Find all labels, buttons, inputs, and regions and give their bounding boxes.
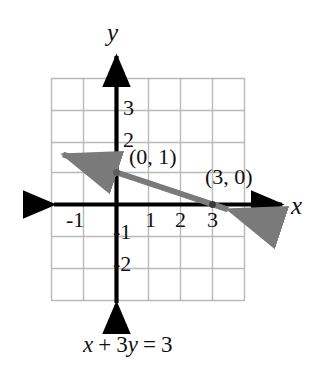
equation-coefficient: 3 xyxy=(116,332,128,357)
y-tick-label-minus-2: -2 xyxy=(113,253,131,275)
x-tick-label-2: 2 xyxy=(175,209,186,231)
point-label-y-intercept: (0, 1) xyxy=(129,146,177,168)
x-tick-label-minus-1: -1 xyxy=(66,209,84,231)
coordinate-plane-svg xyxy=(0,0,315,371)
x-tick-label-1: 1 xyxy=(145,209,156,231)
y-tick-label-minus-1: -1 xyxy=(113,221,131,243)
y-tick-label-3: 3 xyxy=(123,97,134,119)
equation-caption: x+3y=3 xyxy=(83,333,172,356)
equation-equals: = xyxy=(143,332,156,357)
point-label-x-intercept: (3, 0) xyxy=(205,166,253,188)
point-0-1-marker xyxy=(113,169,120,176)
equation-term-x: x xyxy=(83,332,93,357)
equation-term-y: y xyxy=(128,332,138,357)
equation-operator: + xyxy=(98,332,111,357)
y-axis-label: y xyxy=(107,20,118,45)
equation-result: 3 xyxy=(161,332,173,357)
x-axis-label: x xyxy=(291,193,302,218)
graph-figure: y x 3 2 -1 -2 -1 1 2 3 (0, 1) (3, 0) x+3… xyxy=(0,0,315,371)
grid-lines xyxy=(51,78,245,301)
x-tick-label-3: 3 xyxy=(207,209,218,231)
